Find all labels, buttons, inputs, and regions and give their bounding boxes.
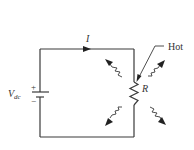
current-arrow-icon: [83, 46, 91, 52]
minus-sign: −: [31, 96, 36, 106]
resistor-zigzag: [130, 82, 138, 105]
source-label-sub: dc: [14, 93, 22, 101]
heat-wave-down-right-icon: [150, 107, 166, 125]
heat-wave-down-left-icon: [105, 107, 122, 126]
heat-wave-up-right-icon: [148, 60, 165, 76]
resistor-label: R: [141, 83, 148, 94]
source-label: Vdc: [8, 88, 22, 101]
circuit-wires: [40, 49, 134, 137]
hot-label: Hot: [168, 41, 183, 52]
circuit-diagram: I + − Vdc R Hot: [0, 0, 194, 150]
plus-sign: +: [31, 82, 36, 92]
current-label: I: [85, 33, 90, 44]
heat-wave-up-left-icon: [105, 59, 122, 77]
hot-leader-line: [139, 46, 164, 77]
hot-arrow-icon: [137, 74, 142, 82]
